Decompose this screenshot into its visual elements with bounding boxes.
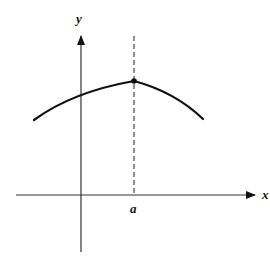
- a-label: a: [130, 201, 137, 216]
- function-graph: y x a: [0, 0, 270, 262]
- diagram-canvas: y x a: [0, 0, 270, 262]
- x-axis-label: x: [261, 187, 269, 202]
- curve-left-branch: [34, 81, 134, 120]
- y-axis-label: y: [74, 11, 82, 26]
- curve-right-branch: [134, 81, 203, 119]
- peak-point: [131, 78, 137, 84]
